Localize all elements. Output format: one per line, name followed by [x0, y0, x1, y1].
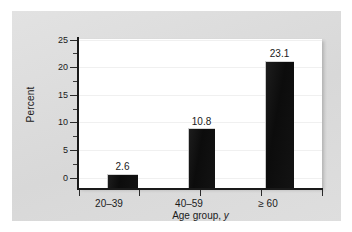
x-tick [79, 190, 80, 196]
y-tick-major [70, 40, 77, 41]
y-tick-label: 20 [32, 63, 68, 72]
x-tick [139, 190, 140, 196]
x-tick [261, 190, 262, 196]
x-axis-title-text: Age group, [172, 210, 224, 221]
y-tick-label: 0 [32, 174, 68, 183]
x-axis-title: Age group, y [79, 210, 322, 221]
y-tick-major [70, 122, 77, 123]
y-tick-major [70, 67, 77, 68]
y-axis-tick-labels: 25 20 15 10 5 0 [28, 11, 68, 232]
y-axis-line [77, 37, 79, 190]
y-tick-major [70, 95, 77, 96]
y-tick-label: 5 [32, 146, 68, 155]
y-tick-label: 25 [32, 36, 68, 45]
gridline [79, 40, 322, 41]
y-tick-label: 10 [32, 118, 68, 127]
x-tick [322, 190, 323, 196]
bar-value-40-59: 10.8 [167, 116, 237, 127]
bar-20-39 [107, 174, 138, 188]
bar-value-20-39: 2.6 [88, 161, 158, 172]
y-tick-label: 15 [32, 91, 68, 100]
y-tick-major [70, 178, 77, 179]
bar-40-59 [188, 128, 215, 188]
bar-60-plus [265, 61, 294, 189]
figure-panel: Percent 25 20 15 10 5 0 [12, 11, 341, 221]
x-axis-title-unit: y [224, 210, 229, 221]
x-tick-label-20-39: 20–39 [69, 198, 149, 209]
x-tick-label-60-plus: ≥ 60 [228, 198, 308, 209]
bar-value-60-plus: 23.1 [245, 48, 315, 59]
y-tick-major [70, 150, 77, 151]
figure: Percent 25 20 15 10 5 0 [0, 0, 352, 232]
x-tick-label-40-59: 40–59 [149, 198, 229, 209]
x-tick [200, 190, 201, 196]
